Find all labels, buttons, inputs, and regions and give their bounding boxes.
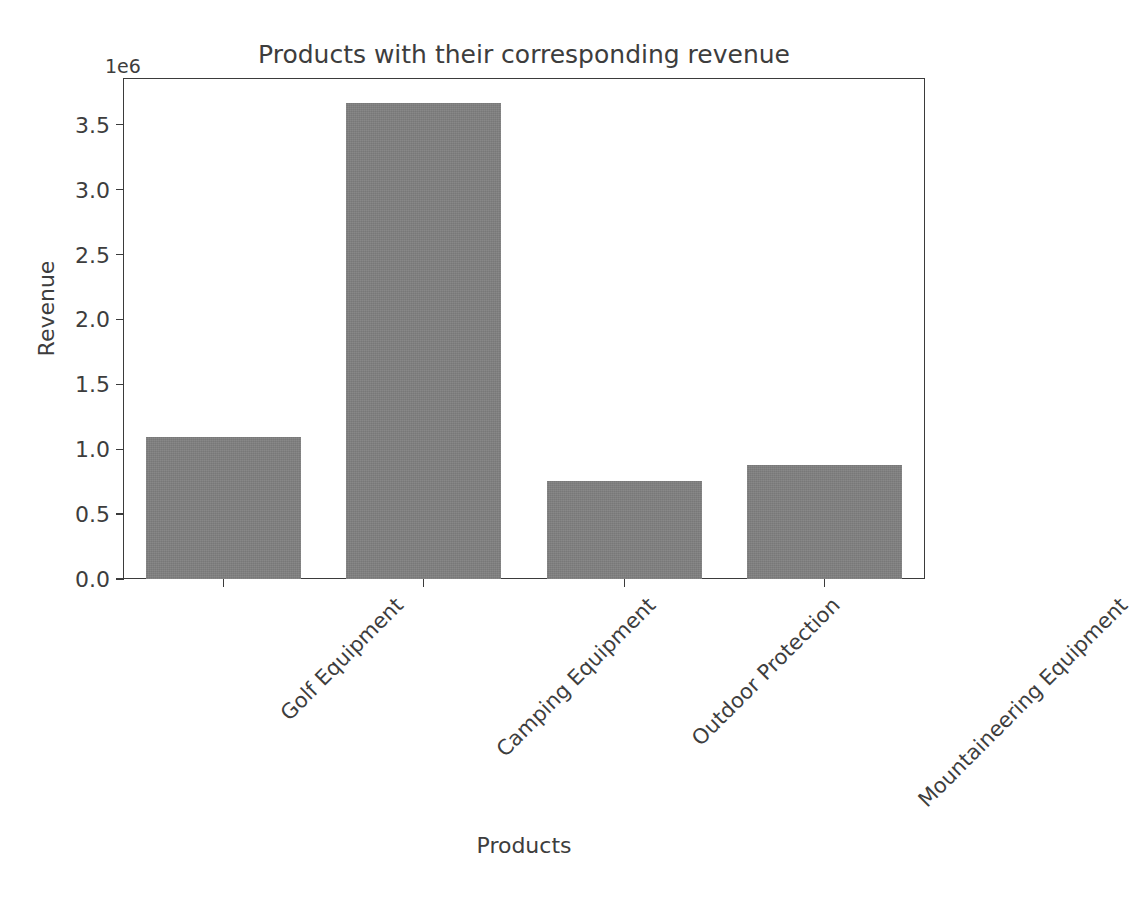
x-axis-tick-mark (824, 579, 825, 587)
chart-title: Products with their corresponding revenu… (123, 40, 925, 69)
y-axis-tick-labels: 0.00.51.01.52.02.53.03.5 (0, 0, 110, 902)
bar (346, 103, 501, 579)
y-axis-tick-label: 3.5 (42, 112, 110, 137)
y-axis-tick-label: 1.0 (42, 437, 110, 462)
x-axis-tick-label: Golf Equipment (276, 593, 408, 725)
y-axis-tick-mark (116, 384, 124, 385)
x-axis-tick-label: Outdoor Protection (687, 593, 844, 750)
x-axis-tick-mark (624, 579, 625, 587)
bar (747, 465, 902, 579)
y-axis-tick-mark (116, 254, 124, 255)
x-axis-tick-label: Mountaineering Equipment (913, 593, 1132, 812)
y-axis-tick-label: 3.0 (42, 177, 110, 202)
y-axis-tick-mark (116, 319, 124, 320)
y-axis-tick-mark (116, 449, 124, 450)
x-axis-tick-mark (423, 579, 424, 587)
x-axis-tick-label: Camping Equipment (492, 593, 661, 762)
y-axis-tick-mark (116, 189, 124, 190)
y-axis-tick-label: 0.5 (42, 502, 110, 527)
y-axis-tick-label: 1.5 (42, 372, 110, 397)
y-axis-tick-mark (116, 578, 124, 579)
bar (146, 437, 301, 579)
y-axis-offset-label: 1e6 (105, 55, 141, 77)
y-axis-title: Revenue (34, 249, 59, 369)
bar (547, 481, 702, 579)
y-axis-tick-mark (116, 124, 124, 125)
y-axis-tick-mark (116, 513, 124, 514)
y-axis-tick-label: 0.0 (42, 567, 110, 592)
x-axis-title: Products (123, 833, 925, 858)
x-axis-tick-mark (223, 579, 224, 587)
